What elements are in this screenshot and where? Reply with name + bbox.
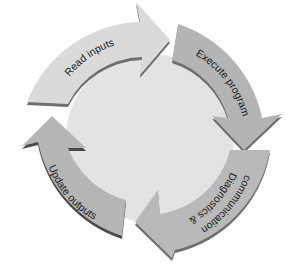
scan-cycle-diagram: Read inputs Execute program Diagnostics … bbox=[0, 0, 290, 269]
